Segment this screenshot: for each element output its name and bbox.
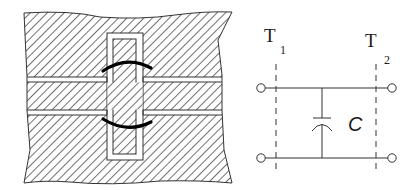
- diagram-canvas: T 1 T 2 C: [0, 0, 419, 190]
- t1-subscript: 1: [280, 44, 286, 56]
- terminal-bottom-right: [388, 154, 396, 162]
- layered-structure: [0, 0, 240, 190]
- terminal-bottom-left: [257, 154, 265, 162]
- t2-subscript: 2: [384, 54, 390, 66]
- t2-label: T: [365, 31, 377, 50]
- t1-label: T: [264, 26, 276, 45]
- equivalent-circuit: [257, 64, 396, 174]
- capacitor-label: C: [348, 114, 362, 134]
- terminal-top-right: [388, 84, 396, 92]
- terminal-top-left: [257, 84, 265, 92]
